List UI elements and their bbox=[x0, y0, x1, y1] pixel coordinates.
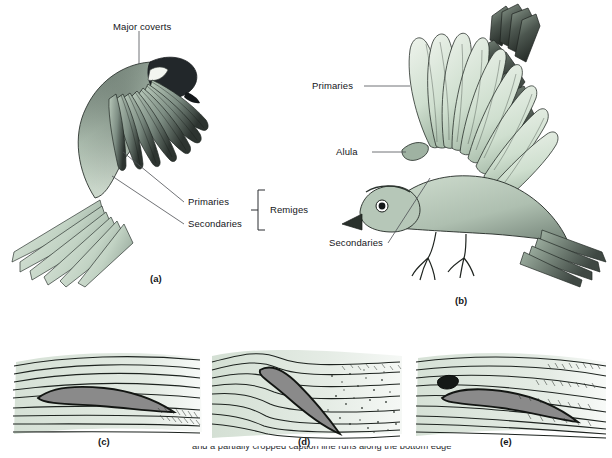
panel-letter-b: (b) bbox=[455, 296, 467, 306]
panel-b: Primaries Alula Secondaries (b) bbox=[306, 0, 612, 320]
panel-e: (e) bbox=[408, 336, 608, 454]
bird-wing-aerodynamics-figure: Major coverts Primaries Secondaries Remi… bbox=[0, 0, 612, 458]
label-secondaries-a: Secondaries bbox=[188, 219, 242, 229]
alula-slot-element-e bbox=[437, 375, 458, 389]
panel-d: (d) bbox=[208, 336, 404, 454]
panel-a-illustration bbox=[0, 0, 306, 300]
bird-eye-b bbox=[379, 203, 386, 210]
tail-feathers-b bbox=[520, 230, 606, 287]
bird-head-b bbox=[360, 186, 420, 232]
label-major-coverts: Major coverts bbox=[113, 22, 171, 32]
panel-letter-a: (a) bbox=[150, 274, 162, 284]
alula-feather bbox=[402, 143, 428, 161]
cropped-caption-strip: and a partially cropped caption line run… bbox=[0, 446, 612, 458]
bird-feet bbox=[412, 232, 474, 280]
panel-c: (c) bbox=[8, 336, 204, 454]
label-remiges: Remiges bbox=[270, 205, 308, 215]
panel-b-illustration bbox=[306, 0, 612, 320]
bird-bill-b bbox=[342, 214, 362, 230]
label-primaries-a: Primaries bbox=[188, 197, 229, 207]
panel-a: Major coverts Primaries Secondaries Remi… bbox=[0, 0, 306, 300]
label-primaries-b: Primaries bbox=[312, 81, 353, 91]
tail-feathers bbox=[12, 200, 133, 287]
label-secondaries-b: Secondaries bbox=[329, 238, 383, 248]
label-alula: Alula bbox=[336, 147, 358, 157]
wing-primaries bbox=[409, 33, 558, 200]
cropped-caption-text: and a partially cropped caption line run… bbox=[192, 446, 451, 451]
leader-secondaries bbox=[112, 176, 184, 224]
remiges-bracket-shape bbox=[251, 190, 265, 230]
